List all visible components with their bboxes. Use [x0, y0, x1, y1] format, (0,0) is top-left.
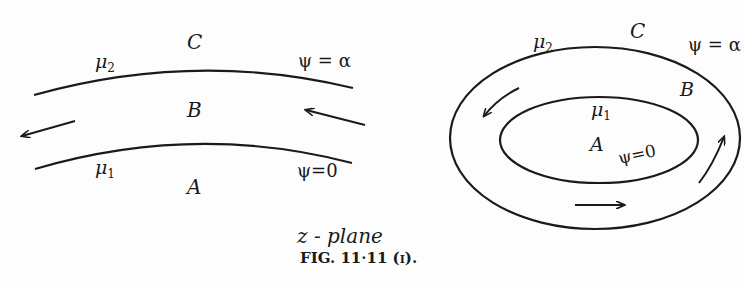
mu-symbol: μ: [95, 50, 107, 72]
medium-label-mu2: μ2: [95, 52, 115, 74]
medium-label-mu1: μ1: [95, 158, 115, 180]
region-label-c: C: [187, 32, 202, 52]
mu-subscript: 1: [603, 109, 611, 123]
medium-label-mu1-ellipse: μ1: [591, 100, 611, 122]
flow-arrow-right: [306, 110, 365, 125]
stream-value-zero: ψ=0: [297, 162, 338, 180]
region-label-a-ellipse: A: [590, 135, 604, 154]
figure-canvas: C μ2 ψ = α B μ1 ψ=0 A μ2 C ψ = α B μ1 A …: [0, 0, 744, 282]
mu-subscript: 1: [107, 167, 115, 181]
medium-label-mu2-ellipse: μ2: [533, 32, 553, 54]
region-label-a: A: [187, 177, 201, 197]
ccw-arrow-topleft: [484, 88, 519, 116]
stream-value-alpha-ellipse: ψ = α: [688, 36, 741, 54]
mu-subscript: 2: [107, 61, 115, 75]
region-label-c-ellipse: C: [630, 21, 645, 41]
mu-subscript: 2: [545, 41, 553, 55]
region-label-b: B: [187, 100, 202, 120]
figure-caption: FIG. 11·11 (i).: [300, 251, 417, 266]
plane-label: z - plane: [297, 226, 383, 246]
flow-arrow-left: [22, 121, 75, 136]
mu-symbol: μ: [591, 98, 603, 120]
upper-streamline: [34, 71, 353, 95]
stream-value-alpha: ψ = α: [298, 52, 351, 70]
region-label-b-ellipse: B: [680, 80, 694, 99]
mu-symbol: μ: [533, 30, 545, 52]
mu-symbol: μ: [95, 156, 107, 178]
ccw-arrow-right: [699, 137, 724, 183]
